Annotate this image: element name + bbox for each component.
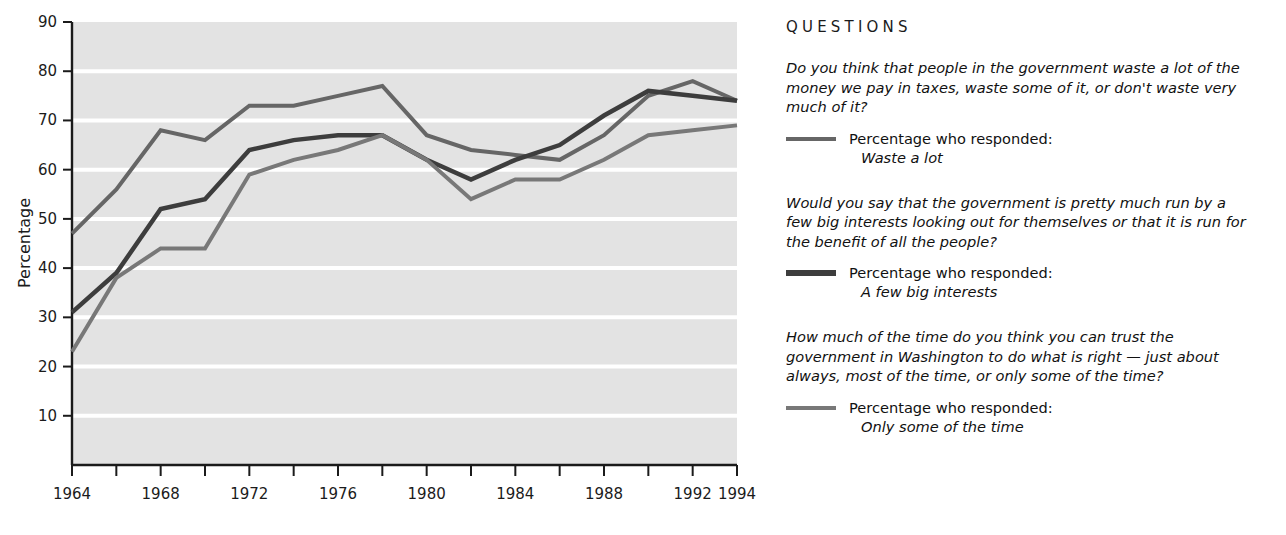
- y-axis-tick-label: 90: [38, 13, 57, 31]
- x-axis-ticks: 196419681972197619801984198819921994: [53, 465, 756, 503]
- line-chart-figure: 102030405060708090 196419681972197619801…: [0, 0, 780, 535]
- legend-label-group: Percentage who responded: Only some of t…: [849, 398, 1053, 436]
- x-axis-tick-label: 1980: [408, 485, 446, 503]
- x-axis-tick-label: 1984: [496, 485, 534, 503]
- legend-prefix-label: Percentage who responded:: [849, 398, 1053, 417]
- y-axis-tick-label: 50: [38, 210, 57, 228]
- plot-background: [72, 22, 737, 465]
- y-axis-tick-label: 40: [38, 259, 57, 277]
- x-axis-tick-label: 1992: [674, 485, 712, 503]
- y-axis-tick-label: 10: [38, 407, 57, 425]
- y-axis-ticks: 102030405060708090: [38, 13, 72, 425]
- x-axis-tick-label: 1994: [718, 485, 756, 503]
- legend-answer-label: A few big interests: [861, 282, 1053, 301]
- x-axis-tick-label: 1968: [142, 485, 180, 503]
- y-axis-tick-label: 70: [38, 111, 57, 129]
- y-axis-tick-label: 20: [38, 358, 57, 376]
- question-block-waste-a-lot: Do you think that people in the governme…: [786, 58, 1286, 167]
- question-text: Do you think that people in the governme…: [786, 58, 1246, 117]
- legend-prefix-label: Percentage who responded:: [849, 129, 1053, 148]
- legend-answer-label: Waste a lot: [861, 148, 1053, 167]
- legend-line-swatch-icon: [786, 406, 836, 410]
- x-axis-tick-label: 1972: [230, 485, 268, 503]
- questions-heading: QUESTIONS: [786, 18, 1286, 36]
- legend-entry-few-big-interests[interactable]: Percentage who responded: A few big inte…: [786, 263, 1286, 301]
- question-block-few-big-interests: Would you say that the government is pre…: [786, 193, 1286, 302]
- x-axis-tick-label: 1976: [319, 485, 357, 503]
- y-axis-tick-label: 30: [38, 308, 57, 326]
- legend-line-swatch-icon: [786, 270, 836, 276]
- question-text: Would you say that the government is pre…: [786, 193, 1246, 252]
- y-axis-tick-label: 80: [38, 62, 57, 80]
- legend-line-swatch-icon: [786, 137, 836, 141]
- y-axis-tick-label: 60: [38, 161, 57, 179]
- x-axis-tick-label: 1988: [585, 485, 623, 503]
- question-text: How much of the time do you think you ca…: [786, 327, 1246, 386]
- chart-page: 102030405060708090 196419681972197619801…: [0, 0, 1286, 535]
- question-block-only-some-of-the-time: How much of the time do you think you ca…: [786, 327, 1286, 436]
- chart-svg: 102030405060708090 196419681972197619801…: [0, 0, 780, 535]
- questions-panel: QUESTIONS Do you think that people in th…: [786, 0, 1286, 535]
- x-axis-tick-label: 1964: [53, 485, 91, 503]
- legend-entry-only-some-of-the-time[interactable]: Percentage who responded: Only some of t…: [786, 398, 1286, 436]
- legend-label-group: Percentage who responded: A few big inte…: [849, 263, 1053, 301]
- legend-label-group: Percentage who responded: Waste a lot: [849, 129, 1053, 167]
- legend-prefix-label: Percentage who responded:: [849, 263, 1053, 282]
- y-axis-title: Percentage: [15, 198, 34, 288]
- legend-entry-waste-a-lot[interactable]: Percentage who responded: Waste a lot: [786, 129, 1286, 167]
- legend-answer-label: Only some of the time: [861, 417, 1053, 436]
